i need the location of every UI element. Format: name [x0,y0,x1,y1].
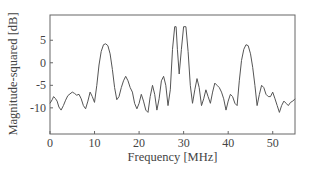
x-tick-label: 40 [222,136,234,150]
plot-area [50,15,295,134]
plot-frame [50,15,295,134]
x-tick-label: 20 [133,136,145,150]
x-tick-label: 10 [89,136,101,150]
spectrum-chart: 01020304050 50-5-10 Frequency [MHz] Magn… [0,0,312,171]
y-tick-label: -10 [30,101,46,115]
x-axis-label: Frequency [MHz] [128,150,218,164]
y-tick-label: -5 [36,78,46,92]
x-tick-label: 30 [178,136,190,150]
y-tick-label: 0 [40,56,46,70]
x-tick-label: 50 [267,136,279,150]
y-tick-label: 5 [40,33,46,47]
x-tick-label: 0 [47,136,53,150]
y-axis-label: Magnitude-squared [dB] [6,12,20,135]
